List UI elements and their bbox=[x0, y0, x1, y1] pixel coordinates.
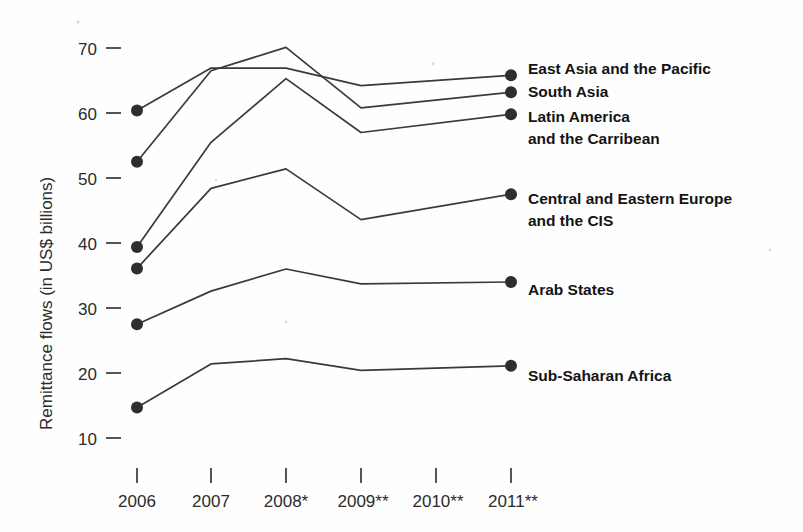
series-line-2 bbox=[137, 79, 511, 247]
series-line-3 bbox=[137, 169, 511, 269]
series-marker-1-start bbox=[131, 156, 143, 168]
x-tick-label-2007: 2007 bbox=[192, 492, 230, 511]
speck-right bbox=[769, 249, 772, 252]
y-axis-title: Remittance flows (in US$ billions) bbox=[37, 177, 56, 430]
x-axis-ticks bbox=[137, 468, 511, 483]
y-tick-label-50: 50 bbox=[78, 170, 97, 189]
series-labels: East Asia and the Pacific South Asia Lat… bbox=[528, 60, 733, 384]
speck-top-left bbox=[76, 20, 79, 23]
series-marker-3-end bbox=[505, 188, 517, 200]
series-label-east-asia: East Asia and the Pacific bbox=[528, 60, 711, 77]
series-line-4 bbox=[137, 269, 511, 324]
series-marker-2-end bbox=[505, 108, 517, 120]
series-marker-1-end bbox=[505, 86, 517, 98]
series-label-latin-america-line2: and the Carribean bbox=[528, 130, 660, 147]
series-marker-4-start bbox=[131, 318, 143, 330]
y-axis-tick-labels: 70 60 50 40 30 20 10 bbox=[78, 40, 97, 449]
series-label-latin-america: Latin America bbox=[528, 108, 630, 125]
series-label-sub-saharan: Sub-Saharan Africa bbox=[528, 367, 672, 384]
series-line-5 bbox=[137, 359, 511, 408]
series-label-cee-cis-line2: and the CIS bbox=[528, 212, 613, 229]
series-label-south-asia: South Asia bbox=[528, 83, 609, 100]
series-label-arab-states: Arab States bbox=[528, 281, 614, 298]
x-tick-label-2011: 2011** bbox=[488, 492, 538, 511]
y-tick-label-40: 40 bbox=[78, 235, 97, 254]
speck-lower bbox=[285, 321, 287, 323]
x-axis-tick-labels: 2006 2007 2008* 2009** 2010** 2011** bbox=[118, 492, 538, 511]
y-tick-label-30: 30 bbox=[78, 300, 97, 319]
y-tick-label-70: 70 bbox=[78, 40, 97, 59]
y-tick-label-60: 60 bbox=[78, 105, 97, 124]
chart-figure: 70 60 50 40 30 20 10 Remittance flows (i… bbox=[0, 0, 803, 532]
y-tick-label-20: 20 bbox=[78, 365, 97, 384]
x-tick-label-2010: 2010** bbox=[412, 492, 463, 511]
y-tick-label-10: 10 bbox=[78, 430, 97, 449]
series-line-1 bbox=[137, 47, 511, 161]
speck-left-mid bbox=[215, 179, 217, 181]
series-marker-2-start bbox=[131, 241, 143, 253]
x-tick-label-2006: 2006 bbox=[118, 492, 156, 511]
data-series-layer bbox=[131, 47, 517, 413]
series-marker-5-start bbox=[131, 401, 143, 413]
x-tick-label-2008: 2008* bbox=[264, 492, 309, 511]
speck-mid bbox=[432, 63, 435, 66]
line-chart-canvas: 70 60 50 40 30 20 10 Remittance flows (i… bbox=[0, 0, 803, 532]
series-marker-4-end bbox=[505, 276, 517, 288]
series-marker-0-start bbox=[131, 104, 143, 116]
x-tick-label-2009: 2009** bbox=[337, 492, 388, 511]
series-marker-0-end bbox=[505, 69, 517, 81]
series-marker-5-end bbox=[505, 360, 517, 372]
y-axis-ticks bbox=[106, 48, 121, 438]
series-line-0 bbox=[137, 68, 511, 110]
series-label-cee-cis: Central and Eastern Europe bbox=[528, 190, 733, 207]
series-marker-3-start bbox=[131, 262, 143, 274]
